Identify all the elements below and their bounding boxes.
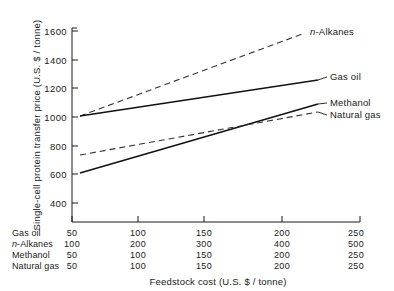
y-ticks-group: 1600 1400 1200 1000 800 600 400	[44, 26, 78, 209]
y-tick-label-1200: 1200	[44, 83, 67, 94]
x-row-methanol-value-3: 150	[196, 250, 212, 260]
y-tick-label-600: 600	[50, 169, 67, 180]
x-row-n-alkanes-value-1: 100	[64, 239, 80, 249]
x-row-n-alkanes-value-4: 400	[274, 239, 290, 249]
y-tick-label-1600: 1600	[44, 26, 67, 37]
x-row-gas-oil-value-3: 150	[196, 228, 212, 238]
series-line-gas-oil	[80, 80, 318, 116]
legend-group: n-Alkanes Gas oil Methanol Natural gas	[310, 26, 381, 120]
series-line-methanol	[80, 104, 318, 173]
x-axis-row-gas-oil: Gas oil 50 100 150 200 250	[12, 228, 364, 238]
y-tick-label-1000: 1000	[44, 112, 67, 123]
x-row-methanol-value-5: 250	[348, 250, 364, 260]
x-row-natural-gas-value-1: 50	[67, 261, 78, 271]
x-row-name-natural-gas: Natural gas	[12, 261, 60, 271]
legend-leader-gas-oil	[318, 77, 327, 80]
series-line-n-alkanes	[80, 33, 305, 116]
x-row-gas-oil-value-5: 250	[348, 228, 364, 238]
series-line-natural-gas	[80, 112, 318, 155]
x-row-natural-gas-value-4: 200	[274, 261, 290, 271]
legend-label-n-alkanes: n-Alkanes	[310, 26, 354, 37]
x-row-methanol-value-1: 50	[67, 250, 78, 260]
series-group	[80, 33, 318, 173]
x-row-methanol-value-2: 100	[130, 250, 146, 260]
x-row-methanol-value-4: 200	[274, 250, 290, 260]
x-row-gas-oil-value-2: 100	[130, 228, 146, 238]
x-row-n-alkanes-value-2: 200	[130, 239, 146, 249]
x-row-name-methanol: Methanol	[12, 250, 50, 260]
x-row-natural-gas-value-3: 150	[196, 261, 212, 271]
legend-leader-methanol	[318, 103, 327, 104]
y-tick-label-800: 800	[50, 141, 67, 152]
axes-group	[72, 28, 360, 222]
y-tick-label-400: 400	[50, 198, 67, 209]
legend-label-methanol: Methanol	[330, 97, 371, 108]
x-axis-row-natural-gas: Natural gas 50 100 150 200 250	[12, 261, 364, 271]
x-axis-title: Feedstock cost (U.S. $ / tonne)	[149, 276, 286, 287]
x-row-n-alkanes-value-5: 500	[348, 239, 364, 249]
legend-label-natural-gas: Natural gas	[330, 109, 381, 120]
chart-canvas: 1600 1400 1200 1000 800 600 400 Single-c…	[0, 0, 394, 291]
x-row-gas-oil-value-1: 50	[67, 228, 78, 238]
x-row-n-alkanes-value-3: 300	[196, 239, 212, 249]
chart-figure: 1600 1400 1200 1000 800 600 400 Single-c…	[0, 0, 394, 291]
legend-label-gas-oil: Gas oil	[330, 71, 361, 82]
x-row-name-n-alkanes: n-Alkanes	[12, 239, 53, 249]
y-axis-title: Single-cell protein transfer price (U.S.…	[31, 20, 42, 231]
x-axis-label-rows: Gas oil 50 100 150 200 250 n-Alkanes 100…	[12, 228, 364, 271]
x-row-text-n-alkanes: -Alkanes	[17, 239, 53, 249]
x-axis-row-n-alkanes: n-Alkanes 100 200 300 400 500	[12, 239, 364, 249]
x-axis-row-methanol: Methanol 50 100 150 200 250	[12, 250, 364, 260]
x-ticks-group	[72, 216, 282, 222]
x-row-gas-oil-value-4: 200	[274, 228, 290, 238]
x-row-natural-gas-value-2: 100	[130, 261, 146, 271]
legend-leader-natural-gas	[318, 112, 327, 115]
x-row-natural-gas-value-5: 250	[348, 261, 364, 271]
x-row-name-gas-oil: Gas oil	[12, 228, 41, 238]
y-tick-label-1400: 1400	[44, 55, 67, 66]
legend-text-n-alkanes: -Alkanes	[315, 26, 354, 37]
